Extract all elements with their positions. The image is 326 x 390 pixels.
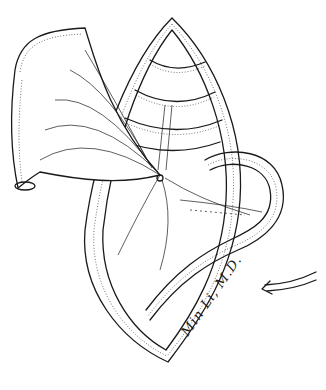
direction-arrow-icon bbox=[262, 272, 316, 294]
surgical-illustration bbox=[0, 0, 326, 390]
abdominal-wall bbox=[85, 18, 241, 362]
